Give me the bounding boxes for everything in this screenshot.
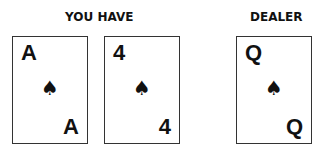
spade-icon: ♠ bbox=[237, 77, 311, 99]
spade-icon: ♠ bbox=[105, 77, 179, 99]
player-card-1: A ♠ A bbox=[12, 36, 88, 144]
dealer-label: DEALER bbox=[250, 10, 303, 24]
card-rank-top: Q bbox=[245, 41, 262, 65]
player-label: YOU HAVE bbox=[65, 10, 133, 24]
card-rank-top: A bbox=[21, 41, 37, 65]
card-rank-bottom: A bbox=[63, 115, 79, 139]
card-rank-bottom: Q bbox=[286, 115, 303, 139]
card-rank-top: 4 bbox=[113, 41, 125, 65]
spade-icon: ♠ bbox=[13, 77, 87, 99]
player-card-2: 4 ♠ 4 bbox=[104, 36, 180, 144]
dealer-card-1: Q ♠ Q bbox=[236, 36, 312, 144]
card-rank-bottom: 4 bbox=[159, 115, 171, 139]
